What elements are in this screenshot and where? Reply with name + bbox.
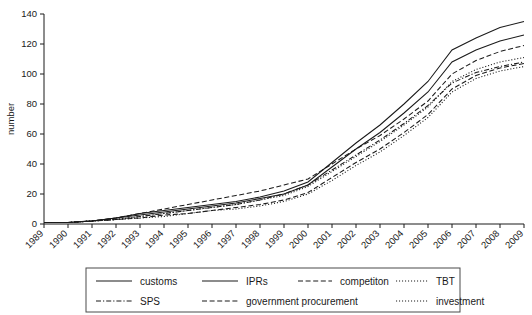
y-axis-title: number — [5, 103, 16, 135]
series-line — [44, 67, 524, 223]
x-tick-label: 2008 — [479, 228, 502, 251]
x-tick-label: 1991 — [71, 228, 94, 251]
legend-label: TBT — [436, 276, 455, 287]
y-axis: 020406080100120140number — [5, 8, 44, 229]
x-tick-label: 1998 — [239, 228, 262, 251]
x-tick-label: 2002 — [335, 228, 358, 251]
x-tick-label: 1990 — [47, 228, 70, 251]
chart-container: 020406080100120140number 198919901991199… — [0, 0, 532, 315]
legend-label: SPS — [140, 296, 160, 307]
x-tick-label: 2006 — [431, 228, 454, 251]
series-line — [44, 62, 524, 223]
x-tick-label: 2007 — [455, 228, 478, 251]
x-tick-label: 2001 — [311, 228, 334, 251]
y-tick-label: 80 — [26, 98, 37, 109]
x-tick-label: 1996 — [191, 228, 214, 251]
x-tick-label: 2004 — [383, 228, 406, 251]
legend-label: government procurement — [246, 296, 358, 307]
x-tick-label: 1992 — [95, 228, 118, 251]
x-tick-label: 1999 — [263, 228, 286, 251]
series-line — [44, 58, 524, 223]
legend-label: customs — [140, 276, 177, 287]
x-tick-label: 2000 — [287, 228, 310, 251]
legend-label: IPRs — [246, 276, 268, 287]
y-tick-label: 140 — [21, 8, 37, 19]
legend-label: competiton — [340, 276, 389, 287]
x-tick-label: 1997 — [215, 228, 238, 251]
y-tick-label: 120 — [21, 38, 37, 49]
x-tick-label: 1989 — [23, 228, 46, 251]
y-tick-label: 100 — [21, 68, 37, 79]
legend-label: investment — [436, 296, 485, 307]
x-axis: 1989199019911992199319941995199619971998… — [23, 224, 526, 250]
series-line — [44, 46, 524, 223]
x-tick-label: 1993 — [119, 228, 142, 251]
line-chart: 020406080100120140number 198919901991199… — [0, 0, 532, 315]
y-tick-label: 20 — [26, 188, 37, 199]
series-line — [44, 64, 524, 223]
chart-legend: customsIPRscompetitonTBTSPSgovernment pr… — [86, 268, 485, 312]
y-tick-label: 60 — [26, 128, 37, 139]
x-tick-label: 2003 — [359, 228, 382, 251]
series-lines — [44, 22, 524, 223]
x-tick-label: 1994 — [143, 228, 166, 251]
y-tick-label: 40 — [26, 158, 37, 169]
x-tick-label: 1995 — [167, 228, 190, 251]
x-tick-label: 2009 — [503, 228, 526, 251]
series-line — [44, 22, 524, 223]
x-tick-label: 2005 — [407, 228, 430, 251]
